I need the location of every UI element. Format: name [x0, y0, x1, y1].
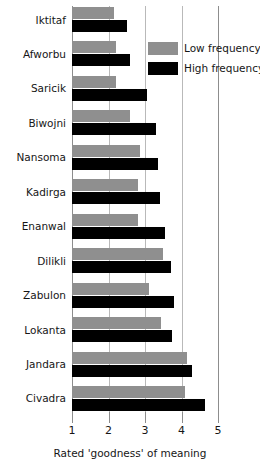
bar-low-frequency	[72, 248, 163, 260]
bar-high-frequency	[72, 123, 156, 135]
bar-row: Dilikli	[72, 247, 218, 274]
bar-high-frequency	[72, 296, 174, 308]
x-tick-mark	[145, 412, 146, 423]
bar-row: Biwojni	[72, 109, 218, 136]
bar-low-frequency	[72, 145, 140, 157]
x-axis-title: Rated 'goodness' of meaning	[0, 448, 260, 459]
bar-row: Saricik	[72, 75, 218, 102]
bar-high-frequency	[72, 365, 192, 377]
x-tick-label: 1	[69, 425, 76, 436]
x-tick-label: 5	[215, 425, 222, 436]
x-tick-mark	[182, 412, 183, 423]
bar-high-frequency	[72, 54, 130, 66]
legend-label: High frequency	[184, 63, 260, 74]
bar-low-frequency	[72, 317, 161, 329]
bar-low-frequency	[72, 386, 185, 398]
category-label: Civadra	[26, 393, 66, 404]
x-tick-mark	[72, 412, 73, 423]
bar-low-frequency	[72, 7, 114, 19]
bar-high-frequency	[72, 158, 158, 170]
bar-high-frequency	[72, 399, 205, 411]
chart-legend: Low frequencyHigh frequency	[148, 42, 260, 75]
bar-chart: IktitafAfworbuSaricikBiwojniNansomaKadir…	[0, 0, 260, 471]
bar-high-frequency	[72, 227, 165, 239]
bar-high-frequency	[72, 192, 160, 204]
category-label: Saricik	[31, 83, 66, 94]
x-tick-mark	[109, 412, 110, 423]
bar-low-frequency	[72, 76, 116, 88]
bar-row: Nansoma	[72, 144, 218, 171]
category-label: Kadirga	[26, 187, 66, 198]
bar-low-frequency	[72, 214, 138, 226]
category-label: Enanwal	[22, 221, 66, 232]
category-label: Iktitaf	[36, 14, 66, 25]
bar-low-frequency	[72, 352, 187, 364]
x-tick-mark	[218, 412, 219, 423]
bar-high-frequency	[72, 261, 171, 273]
bar-row: Kadirga	[72, 178, 218, 205]
legend-swatch-icon	[148, 62, 178, 75]
x-tick-label: 4	[178, 425, 185, 436]
bar-high-frequency	[72, 20, 127, 32]
bar-row: Lokanta	[72, 316, 218, 343]
bar-row: Civadra	[72, 385, 218, 412]
legend-swatch-icon	[148, 42, 178, 55]
x-axis: 12345	[72, 412, 218, 442]
bar-row: Jandara	[72, 351, 218, 378]
category-label: Zabulon	[23, 290, 66, 301]
bar-row: Iktitaf	[72, 6, 218, 33]
bar-row: Zabulon	[72, 282, 218, 309]
x-tick-label: 3	[142, 425, 149, 436]
bar-row: Enanwal	[72, 213, 218, 240]
category-label: Dilikli	[37, 255, 66, 266]
category-label: Afworbu	[23, 49, 66, 60]
legend-entry: High frequency	[148, 62, 260, 75]
bar-high-frequency	[72, 330, 172, 342]
category-label: Biwojni	[28, 118, 66, 129]
category-label: Lokanta	[24, 324, 66, 335]
legend-entry: Low frequency	[148, 42, 260, 55]
category-label: Jandara	[26, 359, 66, 370]
bar-low-frequency	[72, 110, 130, 122]
bar-low-frequency	[72, 41, 116, 53]
bar-low-frequency	[72, 283, 149, 295]
category-label: Nansoma	[16, 152, 66, 163]
bar-low-frequency	[72, 179, 138, 191]
bar-high-frequency	[72, 89, 147, 101]
x-tick-label: 2	[105, 425, 112, 436]
legend-label: Low frequency	[184, 43, 260, 54]
